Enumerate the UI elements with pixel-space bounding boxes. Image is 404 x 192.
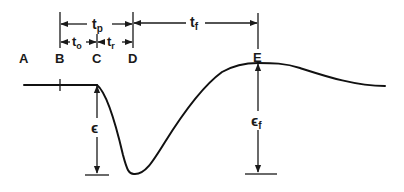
point-label-a: A xyxy=(19,51,29,66)
tr-label: tr xyxy=(107,34,115,51)
to-label: to xyxy=(72,34,82,51)
pulse-response-diagram: tp tf to tr A B C D E ϵ ϵf xyxy=(0,0,404,192)
point-label-b: B xyxy=(55,51,64,66)
eps-f-label: ϵf xyxy=(251,112,262,131)
tp-label: tp xyxy=(92,16,103,34)
point-label-d: D xyxy=(128,51,137,66)
tf-label: tf xyxy=(190,14,199,32)
response-curve xyxy=(97,63,385,174)
point-label-c: C xyxy=(92,51,102,66)
eps-label: ϵ xyxy=(91,119,98,136)
